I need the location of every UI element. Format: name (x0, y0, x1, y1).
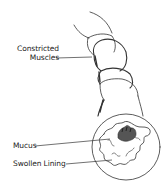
label-constricted-line1: Constricted (14, 44, 59, 53)
tube-side-right (138, 96, 143, 116)
label-constricted-line2: Muscles (14, 53, 59, 62)
leader-constricted-muscles (56, 57, 92, 58)
leader-swollen-lining (66, 160, 112, 164)
airway-cross-section (92, 114, 160, 180)
label-mucus: Mucus (13, 141, 37, 150)
label-constricted-muscles: Constricted Muscles (14, 44, 59, 62)
leader-mucus (35, 139, 110, 146)
label-swollen-lining: Swollen Lining (13, 159, 66, 168)
airway-diagram: Constricted Muscles Mucus Swollen Lining (0, 0, 168, 186)
muscle-ring-3 (98, 68, 132, 88)
muscle-ring-2 (93, 39, 126, 71)
tube-outline-top (90, 12, 112, 33)
muscle-ring-1 (87, 34, 115, 55)
tube-outline-top-left (74, 25, 89, 38)
